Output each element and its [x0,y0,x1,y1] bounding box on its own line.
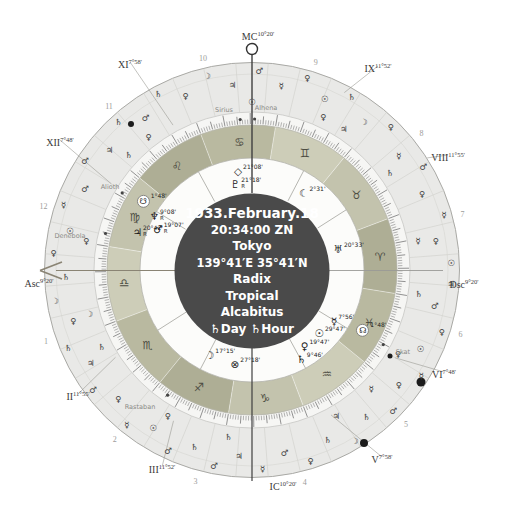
outer-ring-glyph: ♂ [164,446,172,456]
house-cusp-label-viii: VIII11°55' [431,151,465,163]
house-cusp-label-xi: XI7°58' [118,58,142,70]
house-number-1: 1 [44,337,48,346]
house-cusp-label-ix: IX11°52' [364,62,391,74]
outer-ring-glyph: ☉ [150,423,158,433]
outer-ring-glyph: ♀ [320,112,326,122]
house-number-5: 5 [404,420,408,429]
outer-ring-glyph: ☿ [419,371,424,381]
zodiac-sign-virgo-icon: ♍ [130,210,140,224]
outer-ring-glyph: ♂ [210,461,218,471]
neptune-glyph: ♆9°08'R [150,211,177,221]
outer-ring-glyph: ♀ [387,122,393,132]
north-node-glyph: ☊1°48' [356,324,386,337]
zodiac-sign-sagittarius-icon: ♐ [194,380,204,394]
outer-ring-glyph: ♃ [106,145,114,155]
zodiac-sign-libra-icon: ♎ [119,276,129,290]
outer-ring-glyph: ☿ [441,210,446,220]
outer-ring-glyph: ♀ [145,132,151,142]
outer-ring-glyph: ♀ [395,380,401,390]
house-number-4: 4 [303,477,307,486]
outer-ring-glyph: ♃ [447,279,455,289]
house-cusp-label-vi: VI7°48' [432,368,456,380]
sun-glyph: ☉29°47' [315,327,345,337]
outer-ring-glyph: ♄ [125,150,133,160]
outer-ring-glyph: ♀ [304,73,310,83]
outer-ring-glyph: ♀ [307,456,313,466]
outer-ring-glyph: ♂ [141,113,149,123]
natal-chart-wheel: 1933.February.18 20:34:00 ZN Tokyo 139°4… [0,0,518,521]
outer-ring-glyph: ☿ [260,464,265,474]
outer-ring-glyph: ☿ [396,151,401,161]
outer-ring-glyph: ♀ [433,236,439,246]
chart-city: Tokyo [172,238,332,255]
ic-label: IC10°20' [270,480,297,492]
chart-zodiac-mode: Tropical [172,288,332,305]
outer-ring-glyph: ♂ [81,156,89,166]
chart-date: 1933.February.18 [172,205,332,222]
house-number-12: 12 [40,202,48,211]
chart-house-system: Alcabitus [172,304,332,321]
chart-coordinates: 139°41′E 35°41′N [172,255,332,272]
outer-ring-glyph: ♃ [332,411,340,421]
outer-ring-glyph: ♃ [235,451,243,461]
house-cusp-label-iii: III11°52' [149,463,176,475]
pluto-glyph: ♇21°18'R [231,179,261,189]
point-diamond-glyph: ◇21°08' [234,166,263,176]
outer-ring-glyph: ♄ [191,442,199,452]
zodiac-sign-gemini-icon: ♊ [300,146,310,160]
outer-ring-glyph: ♄ [154,89,162,99]
outer-ring-glyph: ☿ [415,236,420,246]
outer-ring-glyph: ♀ [70,316,76,326]
outer-ring-glyph: ☽ [351,436,359,446]
outer-ring-glyph: ☉ [417,344,425,354]
outer-ring-glyph: ♄ [324,435,332,445]
zodiac-sign-leo-icon: ♌ [172,159,182,173]
outer-ring-glyph: ☉ [448,258,456,268]
outer-ring-glyph: ♀ [50,248,56,258]
outer-ring-glyph: ☽ [85,309,93,319]
outer-ring-glyph: ♀ [419,189,425,199]
zodiac-sign-cancer-icon: ♋ [234,135,244,149]
fixed-star-label-alhena: Alhena [255,104,277,112]
asc-label: Asc9°20' [24,277,53,289]
outer-ring-glyph: ♂ [431,301,439,311]
chart-type: Radix [172,271,332,288]
outer-ring-glyph: ☽ [203,71,211,81]
outer-ring-glyph: ♄ [62,272,70,282]
outer-ring-glyph: ☽ [360,117,368,127]
outer-ring-glyph: ♄ [115,117,123,127]
fixed-star-label-sirius: Sirius [215,106,233,114]
outer-ring-glyph: ♂ [389,406,397,416]
chart-day-hour-ruler: ♄Day ♄Hour [172,321,332,338]
outer-ring-glyph: ☉ [321,94,329,104]
fixed-star-label-skat: Skat [396,348,410,356]
outer-ring-glyph: ♀ [439,327,445,337]
outer-ring-glyph: ☿ [368,384,373,394]
venus-glyph: ♀19°47' [301,341,330,351]
outer-ring-glyph: ♀ [115,394,121,404]
fixed-star-label-rastaban: Rastaban [125,403,156,411]
fixed-star-label-denebola: Denebola [54,232,85,240]
south-node-glyph: ☋1°48' [137,195,167,208]
zodiac-sign-scorpio-icon: ♏ [142,338,152,352]
zodiac-sign-aries-icon: ♈ [375,250,385,264]
outer-ring-glyph: ♄ [348,92,356,102]
outer-ring-glyph: ♂ [280,448,288,458]
house-number-11: 11 [105,101,113,110]
outer-ring-glyph: ♃ [340,124,348,134]
uranus-glyph: ♅20°33' [334,243,364,253]
outer-ring-glyph: ♄ [386,168,394,178]
outer-ring-glyph: ♀ [182,91,188,101]
outer-ring-glyph: ♃ [87,358,95,368]
house-number-6: 6 [459,329,463,338]
zodiac-sign-taurus-icon: ♉ [351,188,361,202]
lilith-glyph: ☾2°31' [299,187,326,197]
zodiac-sign-aquarius-icon: ♒ [322,367,332,381]
outer-ring-glyph: ♂ [89,385,97,395]
outer-ring-glyph: ♃ [229,80,237,90]
mars-glyph: ♂19°07'R [153,224,183,234]
part-of-fortune-glyph: ⊗27°18' [231,358,261,368]
saturn-glyph: ♄9°46' [296,353,323,363]
house-cusp-label-v: V7°58' [372,453,393,465]
chart-time: 20:34:00 ZN [172,222,332,239]
